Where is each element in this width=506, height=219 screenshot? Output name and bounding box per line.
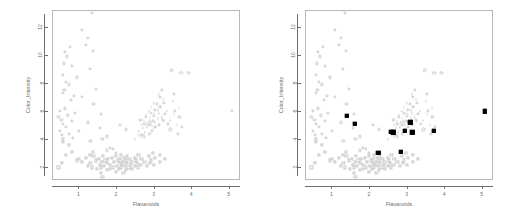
data-point-circle xyxy=(144,115,147,118)
data-point-circle xyxy=(176,132,179,135)
data-point-square xyxy=(317,153,320,156)
data-point-circle xyxy=(314,133,317,136)
data-point-circle xyxy=(402,111,405,114)
data-point-square xyxy=(383,167,386,170)
data-point-triangle xyxy=(164,119,166,122)
data-point-triangle xyxy=(433,71,435,74)
data-point-circle xyxy=(426,110,429,113)
data-point-square xyxy=(343,166,346,169)
y-tick xyxy=(298,83,301,84)
left-y-axis-title: Color_Intensity xyxy=(25,77,31,114)
data-point-square xyxy=(126,155,129,158)
data-point-square xyxy=(147,155,150,158)
highlighted-data-point xyxy=(408,120,412,124)
data-point-triangle xyxy=(135,137,137,140)
data-point-circle xyxy=(72,94,75,97)
y-tick xyxy=(45,27,48,28)
data-point-square xyxy=(129,163,132,166)
x-tick xyxy=(444,186,445,189)
data-point-circle xyxy=(411,124,414,127)
x-tick-label: 5 xyxy=(227,191,230,197)
data-point-square xyxy=(122,171,125,174)
data-point-triangle xyxy=(162,115,164,118)
data-point-circle xyxy=(173,110,176,113)
x-tick-label: 4 xyxy=(190,191,193,197)
data-point-circle xyxy=(163,112,166,115)
data-point-square xyxy=(374,163,377,166)
data-point-square xyxy=(67,143,70,146)
data-point-square xyxy=(351,163,354,166)
data-point-square xyxy=(365,160,368,163)
data-point-triangle xyxy=(416,97,418,100)
data-point-triangle xyxy=(160,122,162,125)
data-point-circle xyxy=(58,129,61,132)
data-point-square xyxy=(358,169,361,172)
data-point-square xyxy=(92,155,95,158)
data-point-circle xyxy=(172,93,175,96)
data-point-circle xyxy=(149,111,152,114)
data-point-square xyxy=(373,153,376,156)
data-point-circle xyxy=(403,129,406,132)
data-point-circle xyxy=(316,88,319,91)
left-x-axis-title: Flavanoids xyxy=(133,201,160,207)
data-point-square xyxy=(98,163,101,166)
data-point-circle xyxy=(94,87,97,90)
data-point-triangle xyxy=(424,69,426,72)
data-point-triangle xyxy=(145,130,147,133)
data-point-circle xyxy=(71,65,74,68)
y-tick xyxy=(298,55,301,56)
data-point-triangle xyxy=(414,104,416,107)
data-point-square xyxy=(105,162,108,165)
data-point-square xyxy=(97,157,100,160)
data-point-circle xyxy=(319,114,322,117)
left-y-axis-line xyxy=(44,14,45,176)
data-point-circle xyxy=(148,132,151,135)
data-point-triangle xyxy=(150,116,152,119)
y-tick-label: 6 xyxy=(293,108,296,114)
data-point-triangle xyxy=(159,111,161,114)
highlighted-data-point xyxy=(410,130,414,134)
data-point-triangle xyxy=(427,112,429,115)
data-point-square xyxy=(90,166,93,169)
x-tick xyxy=(191,186,192,189)
data-point-square xyxy=(103,164,106,167)
data-point-square xyxy=(114,170,117,173)
data-point-circle xyxy=(66,114,69,117)
data-point-triangle xyxy=(146,114,148,117)
highlighted-data-point xyxy=(483,109,487,113)
data-point-square xyxy=(341,153,344,156)
y-tick-label: 12 xyxy=(290,24,296,30)
data-point-circle xyxy=(310,115,313,118)
data-point-circle xyxy=(411,96,414,99)
data-point-circle xyxy=(367,152,370,155)
data-point-circle xyxy=(62,122,65,125)
data-point-square xyxy=(368,164,371,167)
data-point-square xyxy=(339,164,342,167)
data-point-square xyxy=(100,160,103,163)
data-point-square xyxy=(80,160,83,163)
data-point-circle xyxy=(63,51,66,54)
data-point-triangle xyxy=(401,121,403,124)
data-point-triangle xyxy=(406,128,408,131)
data-point-square xyxy=(377,159,380,162)
data-point-circle xyxy=(62,73,65,76)
data-point-circle xyxy=(150,129,153,132)
data-point-circle xyxy=(69,98,72,101)
right-x-axis-line xyxy=(305,186,493,187)
data-point-circle xyxy=(61,91,64,94)
data-point-square xyxy=(376,164,379,167)
data-point-circle xyxy=(343,11,346,14)
data-point-circle xyxy=(416,112,419,115)
data-point-square xyxy=(134,159,137,162)
data-point-circle xyxy=(392,118,395,121)
x-tick-label: 3 xyxy=(405,191,408,197)
data-point-triangle xyxy=(392,129,394,132)
data-point-circle xyxy=(159,105,162,108)
data-point-circle xyxy=(397,115,400,118)
data-point-triangle xyxy=(174,112,176,115)
data-point-triangle xyxy=(143,119,145,122)
data-point-circle xyxy=(409,103,412,106)
x-tick xyxy=(482,186,483,189)
data-point-circle xyxy=(64,107,67,110)
data-point-square xyxy=(382,163,385,166)
